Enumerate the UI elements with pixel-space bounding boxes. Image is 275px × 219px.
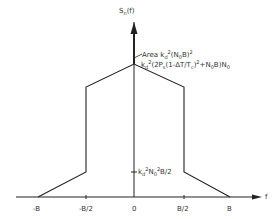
spectral-density-diagram: Sn(f) Area kd2(N0B)2 kd2(2Ps(1-ΔT/Tc)2+N… [0,0,275,219]
impulse-arrow-icon [131,22,138,34]
area-leader-line [134,54,142,58]
x-axis-label: f [265,193,268,201]
peak-level-label: kd2(2Ps(1-ΔT/Tc)2+N0B)N0 [141,59,230,70]
x-tick-zero: 0 [132,205,136,213]
x-tick-b: B [227,205,232,213]
step-level-label: kd2N02B/2 [138,166,172,177]
x-tick-neg-b-half: -B/2 [79,205,93,213]
y-axis-label: Sn(f) [119,7,135,16]
x-tick-neg-b: -B [33,205,40,213]
x-tick-b-half: B/2 [177,205,189,213]
x-axis-arrow-icon [252,195,262,200]
